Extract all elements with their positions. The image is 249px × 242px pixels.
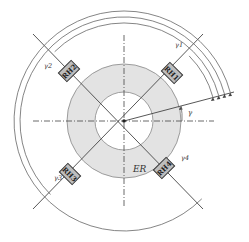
ring-label: ER	[132, 164, 147, 174]
heater-rh3: RH3	[59, 163, 80, 184]
arrowheads	[179, 93, 232, 111]
heater-layout-diagram: RH1 RH2 RH3 RH4 ER γ γ1 γ2 γ3 γ4	[0, 0, 249, 242]
gamma1-label: γ1	[175, 41, 183, 49]
gamma4-label: γ4	[181, 154, 189, 162]
gamma3-label: γ3	[54, 174, 62, 182]
gamma2-label: γ2	[44, 62, 52, 70]
center-point	[122, 119, 126, 123]
gamma-label: γ	[188, 109, 193, 117]
